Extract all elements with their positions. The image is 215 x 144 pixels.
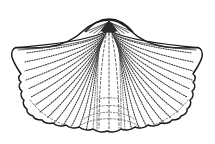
fossil-illustration-figure: Fan-shaped brachiopod shell <box>0 0 215 144</box>
beak-shadow <box>103 29 116 32</box>
brachiopod-drawing: Fan-shaped brachiopod shell <box>0 0 215 144</box>
